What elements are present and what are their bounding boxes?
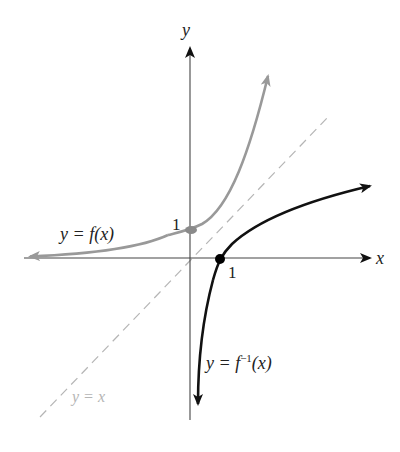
finv-label: y = f−1(x) <box>206 352 272 374</box>
y-axis-label: y <box>182 20 190 41</box>
finv-intercept-point <box>215 254 225 264</box>
tick-x-one: 1 <box>228 263 237 283</box>
identity-line <box>40 117 328 417</box>
tick-y-one: 1 <box>172 215 181 235</box>
finv-label-prefix: y = f <box>206 353 240 373</box>
finv-label-sup: −1 <box>240 352 252 364</box>
inverse-function-diagram: y x 1 1 y = f(x) y = f−1(x) y = x <box>0 0 400 452</box>
identity-label: y = x <box>72 388 105 406</box>
finv-curve <box>198 280 213 404</box>
x-axis-label: x <box>376 248 384 269</box>
f-intercept-point <box>185 226 197 234</box>
f-curve-upper <box>168 76 268 235</box>
f-label: y = f(x) <box>60 224 114 245</box>
finv-curve-upper <box>213 186 370 280</box>
finv-label-suffix: (x) <box>252 353 272 373</box>
